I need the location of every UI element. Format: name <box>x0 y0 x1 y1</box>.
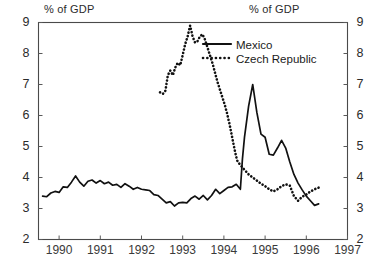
chart-plot-area <box>0 0 384 267</box>
figure-panel: % of GDP % of GDP 23456789 23456789 1990… <box>0 0 384 267</box>
y-axis-tick-label-right-9: 9 <box>357 15 373 29</box>
x-axis-tick-label-1997: 1997 <box>326 243 370 257</box>
y-axis-tick-label-left-8: 8 <box>14 46 30 60</box>
y-axis-tick-label-left-9: 9 <box>14 15 30 29</box>
page-text-fragment <box>0 258 384 267</box>
series-line-mexico <box>43 85 319 207</box>
x-axis-tick-label-1992: 1992 <box>120 243 164 257</box>
y-axis-tick-label-left-2: 2 <box>14 232 30 246</box>
x-axis-tick-label-1995: 1995 <box>243 243 287 257</box>
y-axis-tick-label-right-3: 3 <box>357 201 373 215</box>
legend-label-czech-republic: Czech Republic <box>236 53 317 65</box>
y-axis-ticks-left <box>39 23 43 240</box>
x-axis-tick-label-1994: 1994 <box>202 243 246 257</box>
x-axis-tick-label-1993: 1993 <box>161 243 205 257</box>
series-line-czech-republic <box>160 26 321 201</box>
y-axis-tick-label-left-6: 6 <box>14 108 30 122</box>
y-axis-tick-label-right-5: 5 <box>357 139 373 153</box>
x-axis-ticks <box>59 236 347 240</box>
y-axis-tick-label-right-6: 6 <box>357 108 373 122</box>
x-axis-tick-label-1990: 1990 <box>37 243 81 257</box>
legend-label-mexico: Mexico <box>236 39 272 51</box>
x-axis-tick-label-1991: 1991 <box>78 243 122 257</box>
x-axis-tick-label-1996: 1996 <box>284 243 328 257</box>
y-axis-tick-label-left-4: 4 <box>14 170 30 184</box>
y-axis-ticks-right <box>344 23 348 240</box>
y-axis-tick-label-left-7: 7 <box>14 77 30 91</box>
y-axis-tick-label-right-7: 7 <box>357 77 373 91</box>
y-axis-tick-label-right-8: 8 <box>357 46 373 60</box>
y-axis-tick-label-left-5: 5 <box>14 139 30 153</box>
y-axis-tick-label-left-3: 3 <box>14 201 30 215</box>
y-axis-tick-label-right-4: 4 <box>357 170 373 184</box>
